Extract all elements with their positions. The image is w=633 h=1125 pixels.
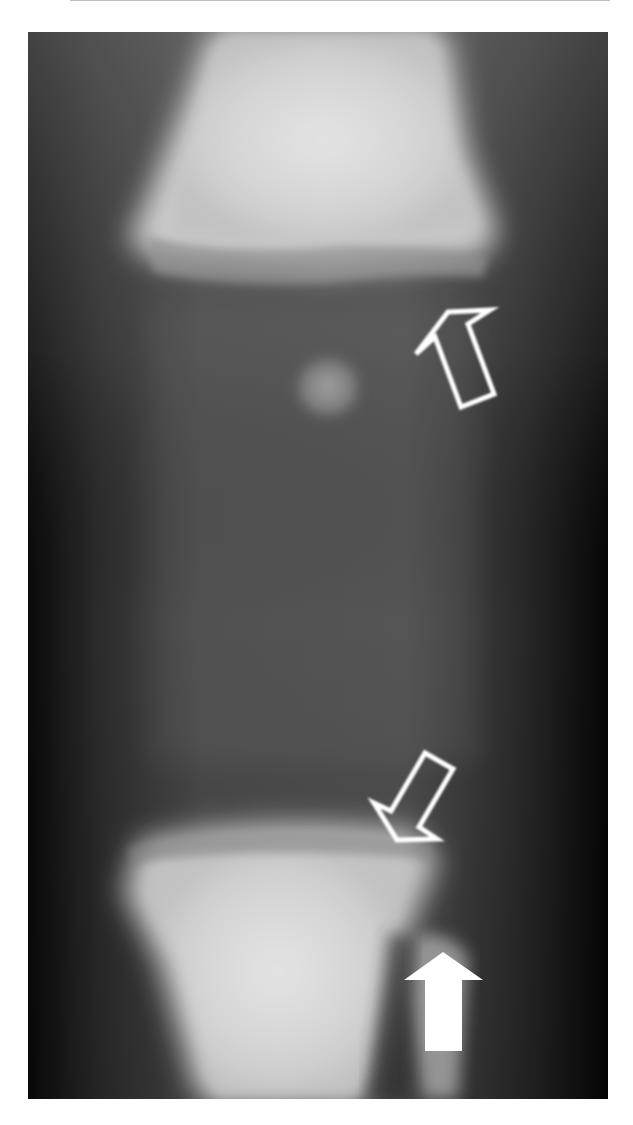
- radiograph-canvas: [28, 32, 608, 1099]
- knee-radiograph: [28, 32, 608, 1099]
- top-rule: [70, 0, 610, 1]
